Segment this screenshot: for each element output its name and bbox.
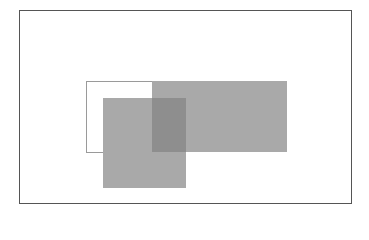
overlap-region (152, 98, 186, 152)
